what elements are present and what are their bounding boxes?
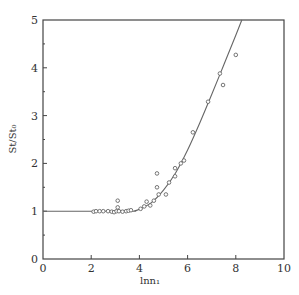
x-tick-label: 6 xyxy=(184,262,191,275)
data-point xyxy=(148,204,152,208)
y-tick-label: 0 xyxy=(31,253,38,266)
data-point xyxy=(155,172,159,176)
data-point xyxy=(191,131,195,135)
y-axis-label: St/St₀ xyxy=(7,124,18,153)
data-point xyxy=(106,209,110,213)
data-point xyxy=(206,100,210,104)
chart: 0246810012345 lnn₁ St/St₀ xyxy=(0,0,299,295)
data-point xyxy=(117,209,121,213)
x-tick-label: 0 xyxy=(40,262,47,275)
x-tick-label: 10 xyxy=(277,262,291,275)
data-point xyxy=(129,208,133,212)
data-point xyxy=(157,193,161,197)
data-point xyxy=(145,200,149,204)
x-tick-label: 4 xyxy=(136,262,143,275)
x-tick-label: 8 xyxy=(232,262,239,275)
data-point xyxy=(173,175,177,179)
data-point xyxy=(218,72,222,76)
data-point xyxy=(98,209,102,213)
axis-ticks xyxy=(43,44,236,259)
data-point xyxy=(167,181,171,185)
data-point xyxy=(116,199,120,203)
data-point xyxy=(139,207,143,211)
data-point xyxy=(155,186,159,190)
x-tick-label: 2 xyxy=(88,262,95,275)
data-point xyxy=(142,205,146,209)
y-tick-label: 5 xyxy=(31,14,38,27)
y-tick-label: 3 xyxy=(31,110,38,123)
data-point xyxy=(221,83,225,87)
data-point xyxy=(179,162,183,166)
y-tick-label: 1 xyxy=(31,205,38,218)
y-tick-label: 2 xyxy=(31,157,38,170)
fit-curve xyxy=(43,20,242,211)
data-point xyxy=(101,209,105,213)
data-point xyxy=(152,199,156,203)
data-point xyxy=(121,210,125,214)
data-point xyxy=(116,206,120,210)
fit-line-path xyxy=(43,20,242,211)
plot-frame xyxy=(43,20,284,259)
data-points xyxy=(92,53,238,214)
data-point xyxy=(164,193,168,197)
tick-labels: 0246810012345 xyxy=(31,14,291,275)
x-axis-label: lnn₁ xyxy=(140,275,160,286)
data-point xyxy=(94,209,98,213)
y-tick-label: 4 xyxy=(31,62,38,75)
data-point xyxy=(173,166,177,170)
plot-border xyxy=(43,20,284,259)
data-point xyxy=(234,53,238,57)
data-point xyxy=(182,159,186,163)
